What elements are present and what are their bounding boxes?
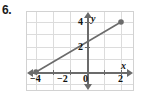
x-axis-label: x — [121, 61, 126, 71]
y-axis-label: y — [91, 14, 95, 24]
problem-number: 6. — [2, 4, 11, 16]
y-tick-label-2: 2 — [78, 42, 83, 52]
x-tick-label-neg2: −2 — [57, 74, 68, 84]
x-tick-label-2: 2 — [118, 74, 123, 84]
x-tick-label-neg4: −4 — [30, 74, 41, 84]
y-tick-label-4: 4 — [78, 17, 83, 27]
origin-label: 0 — [83, 74, 88, 84]
